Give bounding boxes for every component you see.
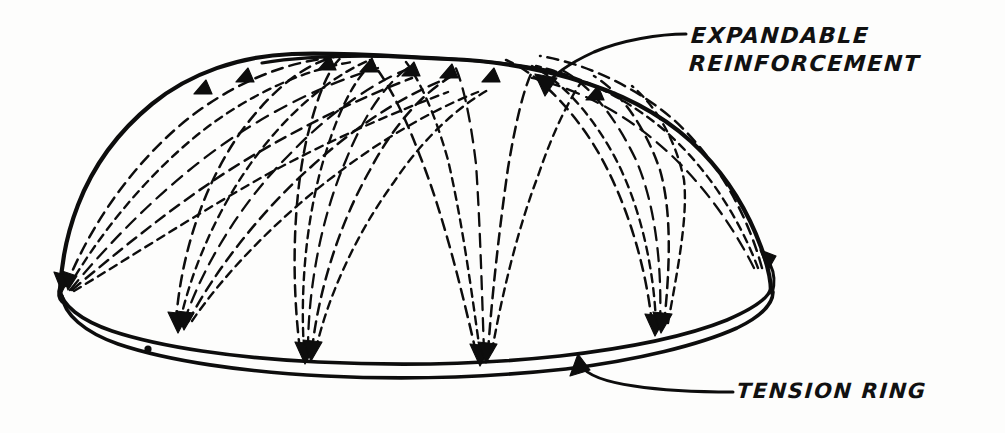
ring-ink-blob (144, 345, 151, 352)
label-expandable-line2: REINFORCEMENT (688, 50, 922, 78)
diagram-canvas: EXPANDABLE REINFORCEMENT TENSION RING (0, 0, 1005, 433)
dome-shell-outline (60, 54, 771, 292)
reinforcement-bundle-center-right (370, 60, 580, 366)
reinforcement-bundle-left (54, 58, 448, 292)
label-expandable-reinforcement: EXPANDABLE REINFORCEMENT (688, 22, 924, 78)
reinforcement-bundle-right-edge (532, 56, 776, 270)
label-tension-line1: TENSION RING (736, 378, 928, 405)
label-expandable-line1: EXPANDABLE (690, 22, 924, 50)
leader-tension-ring (570, 354, 733, 392)
label-tension-ring: TENSION RING (736, 378, 928, 405)
